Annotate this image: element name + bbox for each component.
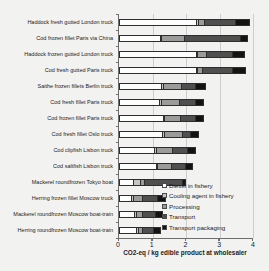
legend-label: Processing (169, 203, 200, 210)
bar-segment-transport (204, 20, 235, 25)
legend-swatch (162, 193, 167, 198)
bar (119, 227, 161, 234)
category-label: Cod saltfish Lisbon truck (0, 158, 116, 174)
bar-segment-transport (179, 100, 195, 105)
bar-segment-diesel-in-fishery (120, 212, 134, 217)
category-label: Haddock frozen gutted London truck (0, 46, 116, 62)
bar-segment-diesel-in-fishery (120, 20, 196, 25)
bar-segment-transport-packaging (153, 228, 159, 233)
bar-segment-transport-packaging (195, 100, 203, 105)
bar-segment-transport-packaging (235, 20, 248, 25)
legend-item: Transport (162, 212, 234, 223)
bar-segment-diesel-in-fishery (120, 148, 154, 153)
bar-segment-processing (161, 36, 184, 41)
bar (119, 35, 248, 42)
bar-row (119, 14, 253, 30)
bar-segment-diesel-in-fishery (120, 196, 131, 201)
bar-segment-transport (171, 164, 186, 169)
bar-row (119, 46, 253, 62)
bar-segment-processing (157, 164, 170, 169)
x-axis-tick-labels: 01234 (118, 240, 253, 249)
legend-item: Diesel in fishery (162, 180, 234, 191)
bar-segment-transport-packaging (185, 164, 192, 169)
legend-swatch (162, 214, 167, 219)
legend-swatch (162, 225, 167, 230)
category-label: Herring roundfrozen Moscow boat-train (0, 222, 116, 238)
bar-segment-transport-packaging (232, 68, 245, 73)
bar-segment-diesel-in-fishery (120, 164, 156, 169)
bar (119, 51, 245, 58)
bar-segment-transport (206, 52, 232, 57)
bar-segment-processing (133, 196, 143, 201)
bar-segment-transport (142, 228, 153, 233)
bar-segment-processing (161, 100, 179, 105)
x-tick-label: 4 (251, 240, 255, 249)
bar (119, 147, 196, 154)
x-axis-title: CO2-eq / kg edible product at wholesaler (112, 249, 258, 257)
bar-segment-processing (197, 52, 205, 57)
bar-segment-processing (164, 132, 182, 137)
bar-segment-processing (198, 20, 205, 25)
category-label: Cod clipfish Lisbon truck (0, 142, 116, 158)
bar-segment-transport-packaging (155, 212, 161, 217)
bar-row (119, 94, 253, 110)
stacked-bar-chart: Haddock fresh gutted London truckCod fro… (0, 0, 269, 271)
bar-segment-transport-packaging (232, 52, 244, 57)
bar-segment-diesel-in-fishery (120, 228, 136, 233)
bar-segment-diesel-in-fishery (120, 52, 196, 57)
bar (119, 211, 163, 218)
bar-segment-processing (156, 148, 172, 153)
category-label: Haddock fresh gutted London truck (0, 14, 116, 30)
bar-segment-transport-packaging (240, 36, 247, 41)
bar-row (119, 142, 253, 158)
bar-segment-diesel-in-fishery (120, 68, 196, 73)
bar-segment-transport-packaging (195, 84, 205, 89)
category-label: Mackerel roundfrozen Tokyo boat (0, 174, 116, 190)
category-label: Cod fresh fillet Oslo truck (0, 126, 116, 142)
category-label: Cod fresh gutted Paris truck (0, 62, 116, 78)
bar-segment-processing (164, 116, 180, 121)
category-label: Mackerel roundfrozen Moscow boat-train (0, 206, 116, 222)
legend: Diesel in fisheryCooling agent in fisher… (162, 180, 234, 233)
bar-segment-transport (184, 36, 240, 41)
bar-segment-processing (163, 84, 181, 89)
category-label: Herring frozen fillet Moscow truck (0, 190, 116, 206)
bar (119, 131, 199, 138)
bar (119, 115, 204, 122)
bar-segment-transport-packaging (190, 132, 198, 137)
bar-row (119, 158, 253, 174)
legend-label: Diesel in fishery (169, 182, 213, 189)
legend-swatch (162, 183, 167, 188)
bar-row (119, 78, 253, 94)
bar-segment-transport (181, 84, 196, 89)
legend-label: Transport (169, 213, 195, 220)
x-tick-label: 2 (184, 240, 188, 249)
category-label: Cod frozen fillet Paris via China (0, 30, 116, 46)
bar (119, 163, 193, 170)
legend-item: Cooling agent in fishery (162, 191, 234, 202)
category-label: Cod fresh fillet Paris truck (0, 94, 116, 110)
category-label: Saithe frozen fillets Berlin truck (0, 78, 116, 94)
bar-segment-diesel-in-fishery (120, 116, 163, 121)
bar-segment-diesel-in-fishery (120, 36, 160, 41)
legend-label: Cooling agent in fishery (169, 192, 234, 199)
category-label: Cod frozen fillet Paris truck (0, 110, 116, 126)
bar-segment-transport (172, 148, 187, 153)
bar-segment-diesel-in-fishery (120, 84, 161, 89)
bar-segment-transport (142, 212, 155, 217)
bar-segment-transport-packaging (187, 148, 195, 153)
bar (119, 83, 206, 90)
x-tick-label: 1 (150, 240, 154, 249)
bar-row (119, 126, 253, 142)
bar-segment-transport (142, 196, 156, 201)
bar-row (119, 110, 253, 126)
bar (119, 99, 204, 106)
bar (119, 195, 166, 202)
bar (119, 67, 246, 74)
bar-row (119, 62, 253, 78)
legend-item: Processing (162, 201, 234, 212)
x-tick-label: 0 (116, 240, 120, 249)
legend-item: Transport packaging (162, 222, 234, 233)
gridline (253, 14, 254, 238)
bar-segment-transport (182, 132, 190, 137)
